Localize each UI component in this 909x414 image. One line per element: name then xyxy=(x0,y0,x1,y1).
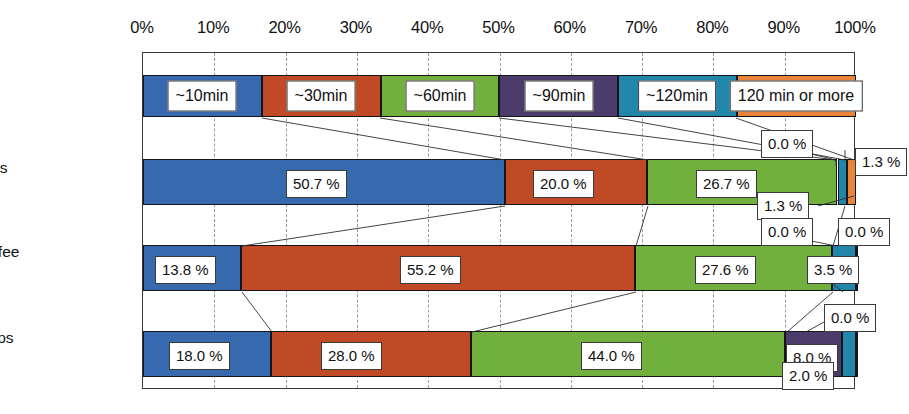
value-label-doutor-60min: 27.6 % xyxy=(695,256,756,284)
value-label-starbucks-30min: 20.0 % xyxy=(533,170,594,198)
bar-row-other-shops: 18.0 % 28.0 % 44.0 % 8.0 % xyxy=(143,331,856,377)
category-label-doutor: Doutor coffee (n=29) xyxy=(0,242,53,280)
category-label-starbucks: Starbucks coffee (n=75) xyxy=(0,158,53,215)
x-tick-0: 0% xyxy=(130,18,153,37)
callout-doutor-90min: 0.0 % xyxy=(761,218,813,246)
callout-doutor-120more: 0.0 % xyxy=(838,218,890,246)
x-tick-80: 80% xyxy=(696,18,728,37)
legend-bar: ~10min ~30min ~60min ~90min ~120min 120 … xyxy=(143,75,856,117)
x-tick-40: 40% xyxy=(411,18,443,37)
x-tick-10: 10% xyxy=(197,18,229,37)
x-tick-50: 50% xyxy=(482,18,514,37)
category-label-other-shops: other shops (n=50) xyxy=(0,328,53,366)
x-tick-70: 70% xyxy=(625,18,657,37)
callout-starbucks-120more: 1.3 % xyxy=(855,148,907,176)
category-label-other-shops-line1: other shops xyxy=(0,328,53,347)
legend-label-120min: ~120min xyxy=(638,81,716,112)
bar-segment-other-120min[interactable] xyxy=(842,331,856,377)
value-label-other-30min: 28.0 % xyxy=(321,342,382,370)
x-tick-20: 20% xyxy=(268,18,300,37)
callout-other-120min: 2.0 % xyxy=(782,362,834,390)
bar-row-doutor: 13.8 % 55.2 % 27.6 % 3.5 % xyxy=(143,245,856,291)
legend-label-30min: ~30min xyxy=(287,81,356,112)
x-tick-90: 90% xyxy=(767,18,799,37)
legend-label-90min: ~90min xyxy=(525,81,594,112)
category-label-starbucks-line2: coffee xyxy=(0,177,53,196)
bar-row-starbucks: 50.7 % 20.0 % 26.7 % xyxy=(143,159,856,205)
value-label-doutor-120min: 3.5 % xyxy=(807,256,859,284)
value-label-doutor-10min: 13.8 % xyxy=(155,256,216,284)
bar-segment-starbucks-120min[interactable] xyxy=(838,159,847,205)
category-label-starbucks-line1: Starbucks xyxy=(0,158,53,177)
value-label-doutor-30min: 55.2 % xyxy=(400,256,461,284)
x-tick-100: 100% xyxy=(834,18,875,37)
callout-other-120more: 0.0 % xyxy=(824,304,876,332)
callout-starbucks-120min: 1.3 % xyxy=(757,192,809,220)
legend-label-60min: ~60min xyxy=(406,81,475,112)
stacked-bar-chart: 0% 10% 20% 30% 40% 50% 60% 70% 80% 90% 1… xyxy=(0,0,909,414)
category-label-doutor-line2: (n=29) xyxy=(0,261,53,280)
x-tick-30: 30% xyxy=(340,18,372,37)
plot-area: ~10min ~30min ~60min ~90min ~120min 120 … xyxy=(142,52,855,389)
legend-label-120more: 120 min or more xyxy=(730,81,863,112)
x-axis-tick-labels: 0% 10% 20% 30% 40% 50% 60% 70% 80% 90% 1… xyxy=(142,18,855,42)
value-label-other-60min: 44.0 % xyxy=(581,342,642,370)
value-label-starbucks-60min: 26.7 % xyxy=(696,170,757,198)
category-label-starbucks-line3: (n=75) xyxy=(0,196,53,215)
bar-segment-other-120more[interactable] xyxy=(856,331,858,377)
category-label-other-shops-line2: (n=50) xyxy=(0,347,53,366)
category-label-doutor-line1: Doutor coffee xyxy=(0,242,53,261)
x-tick-60: 60% xyxy=(554,18,586,37)
legend-label-10min: ~10min xyxy=(168,81,237,112)
value-label-other-10min: 18.0 % xyxy=(169,342,230,370)
value-label-starbucks-10min: 50.7 % xyxy=(286,170,347,198)
callout-starbucks-90min: 0.0 % xyxy=(761,130,813,158)
